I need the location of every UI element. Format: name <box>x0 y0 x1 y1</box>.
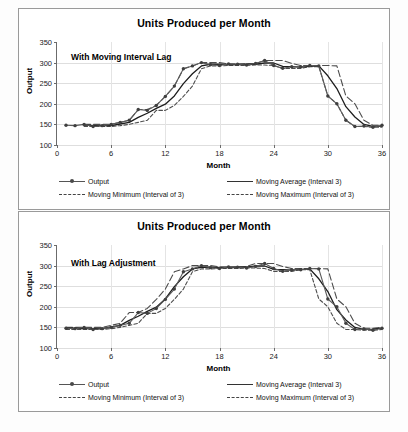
x-gridline <box>382 245 383 348</box>
data-point-marker <box>109 326 112 329</box>
data-point-marker <box>191 267 194 270</box>
data-point-marker <box>137 311 140 314</box>
y-tick-label: 100 <box>39 141 52 150</box>
data-point-marker <box>317 267 320 270</box>
x-tick-label: 30 <box>324 352 332 361</box>
data-point-marker <box>191 64 194 67</box>
line-marker-icon <box>59 380 85 388</box>
data-point-marker <box>236 63 239 66</box>
data-point-marker <box>200 264 203 267</box>
y-tick-label: 300 <box>39 58 52 67</box>
data-point-marker <box>362 124 365 127</box>
data-point-marker <box>299 65 302 68</box>
line-solid-icon <box>227 177 253 185</box>
x-tick-mark <box>220 145 221 148</box>
x-tick-label: 0 <box>55 149 59 158</box>
y-tick-label: 150 <box>39 120 52 129</box>
data-point-marker <box>272 267 275 270</box>
legend-item-moving-maximum[interactable]: Moving Maximum (Interval of 3) <box>227 393 354 401</box>
legend-label-output: Output <box>88 381 109 388</box>
series-line <box>66 61 382 128</box>
data-point-marker <box>91 328 94 331</box>
line-solid-icon <box>227 380 253 388</box>
data-point-marker <box>299 268 302 271</box>
chart-panel-bottom: Units Produced per Month Output 35030025… <box>18 211 390 412</box>
chart-panel-top: Units Produced per Month Output 35030025… <box>18 8 390 210</box>
x-tick-label: 24 <box>269 149 277 158</box>
y-tick-label: 300 <box>39 261 52 270</box>
legend-item-output[interactable]: Output <box>59 177 109 185</box>
data-point-marker <box>64 124 67 127</box>
data-point-marker <box>218 64 221 67</box>
legend-item-moving-average[interactable]: Moving Average (Interval 3) <box>227 380 341 388</box>
data-point-marker <box>218 267 221 270</box>
x-tick-label: 6 <box>109 352 113 361</box>
data-point-marker <box>344 119 347 122</box>
data-point-marker <box>164 298 167 301</box>
data-point-marker <box>100 327 103 330</box>
data-point-marker <box>73 124 76 127</box>
legend-label-moving-average: Moving Average (Interval 3) <box>256 178 341 185</box>
line-dashed-fine-icon <box>59 190 85 198</box>
series-line <box>84 63 382 126</box>
data-point-marker <box>245 63 248 66</box>
data-point-marker <box>335 305 338 308</box>
legend-item-output[interactable]: Output <box>59 380 109 388</box>
line-dashed-fine-icon <box>59 393 85 401</box>
legend-item-moving-average[interactable]: Moving Average (Interval 3) <box>227 177 341 185</box>
data-point-marker <box>344 322 347 325</box>
data-point-marker <box>290 268 293 271</box>
data-point-marker <box>109 123 112 126</box>
y-axis-title-top: Output <box>25 68 34 94</box>
data-point-marker <box>227 265 230 268</box>
x-tick-label: 12 <box>161 149 169 158</box>
data-point-marker <box>118 121 121 124</box>
data-point-marker <box>227 62 230 65</box>
legend-item-moving-minimum[interactable]: Moving Minimum (Interval of 3) <box>59 190 184 198</box>
data-point-marker <box>272 64 275 67</box>
data-point-marker <box>155 104 158 107</box>
data-point-marker <box>91 125 94 128</box>
line-marker-icon <box>59 177 85 185</box>
y-tick-label: 100 <box>39 344 52 353</box>
y-tick-label: 250 <box>39 79 52 88</box>
x-tick-mark <box>274 348 275 351</box>
legend-label-moving-minimum: Moving Minimum (Interval of 3) <box>88 394 184 401</box>
data-point-marker <box>236 266 239 269</box>
x-tick-label: 24 <box>269 352 277 361</box>
figure-page: Units Produced per Month Output 35030025… <box>0 0 408 432</box>
x-axis-title-bottom: Month <box>56 364 381 373</box>
x-axis-title-top: Month <box>56 161 381 170</box>
x-tick-mark <box>57 348 58 351</box>
x-gridline <box>382 42 383 145</box>
data-point-marker <box>200 61 203 64</box>
data-point-marker <box>146 312 149 315</box>
x-tick-label: 36 <box>378 352 386 361</box>
x-tick-mark <box>382 145 383 148</box>
x-tick-mark <box>274 145 275 148</box>
legend-item-moving-maximum[interactable]: Moving Maximum (Interval of 3) <box>227 190 354 198</box>
data-point-marker <box>317 64 320 67</box>
data-point-marker <box>326 94 329 97</box>
data-point-marker <box>73 327 76 330</box>
x-tick-label: 0 <box>55 352 59 361</box>
x-tick-label: 36 <box>378 149 386 158</box>
legend-item-moving-minimum[interactable]: Moving Minimum (Interval of 3) <box>59 393 184 401</box>
y-tick-label: 150 <box>39 323 52 332</box>
data-point-marker <box>371 329 374 332</box>
data-point-marker <box>128 322 131 325</box>
data-point-marker <box>209 63 212 66</box>
x-tick-label: 12 <box>161 352 169 361</box>
data-point-marker <box>371 126 374 129</box>
y-tick-label: 350 <box>39 241 52 250</box>
data-point-marker <box>362 327 365 330</box>
y-tick-label: 200 <box>39 99 52 108</box>
data-point-marker <box>137 108 140 111</box>
x-tick-mark <box>57 145 58 148</box>
data-point-marker <box>100 124 103 127</box>
y-tick-label: 200 <box>39 302 52 311</box>
data-point-marker <box>254 62 257 65</box>
data-point-marker <box>155 307 158 310</box>
data-point-marker <box>118 324 121 327</box>
data-point-marker <box>263 262 266 265</box>
